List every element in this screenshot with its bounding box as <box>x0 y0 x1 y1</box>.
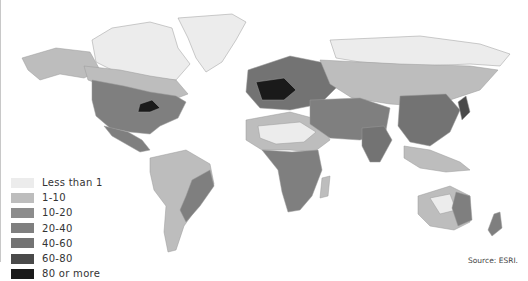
region-central-africa[interactable] <box>262 150 322 212</box>
region-india[interactable] <box>362 126 392 162</box>
legend-label: 1-10 <box>42 192 66 203</box>
source-label: Source: ESRI. <box>468 256 518 265</box>
legend-label: 20-40 <box>42 223 73 234</box>
region-south-america[interactable] <box>150 150 214 252</box>
legend-swatch <box>11 223 34 233</box>
legend-label: 40-60 <box>42 238 73 249</box>
region-new-zealand[interactable] <box>488 212 502 236</box>
region-madagascar[interactable] <box>320 176 330 198</box>
legend-swatch <box>11 269 34 279</box>
legend-item: Less than 1 <box>11 175 103 190</box>
legend-item: 1-10 <box>11 190 103 205</box>
region-japan[interactable] <box>458 96 470 120</box>
legend-swatch <box>11 238 34 248</box>
legend-swatch <box>11 193 34 203</box>
legend-item: 60-80 <box>11 251 103 266</box>
legend-label: 80 or more <box>42 268 100 279</box>
region-southeast-asia[interactable] <box>404 146 470 172</box>
legend-label: 60-80 <box>42 253 73 264</box>
legend: Less than 1 1-10 10-20 20-40 40-60 60-80… <box>11 175 103 281</box>
legend-swatch <box>11 208 34 218</box>
legend-item: 80 or more <box>11 266 103 281</box>
legend-label: 10-20 <box>42 207 73 218</box>
region-china-east[interactable] <box>398 94 460 146</box>
legend-item: 10-20 <box>11 205 103 220</box>
legend-swatch <box>11 254 34 264</box>
legend-item: 40-60 <box>11 236 103 251</box>
legend-swatch <box>11 178 34 188</box>
region-russia-north[interactable] <box>330 36 510 66</box>
legend-item: 20-40 <box>11 221 103 236</box>
legend-label: Less than 1 <box>42 177 103 188</box>
